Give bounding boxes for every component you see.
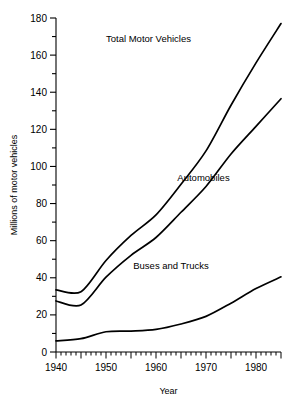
x-axis-title: Year (159, 386, 177, 396)
chart-figure: 020406080100120140160180 194019501960197… (0, 0, 293, 399)
y-tick-label: 0 (41, 347, 47, 358)
y-tick-label: 80 (36, 198, 48, 209)
x-tick-label: 1950 (95, 362, 118, 373)
x-tick-label: 1940 (45, 362, 68, 373)
y-tick-label: 180 (30, 13, 47, 24)
x-tick-label: 1970 (195, 362, 218, 373)
y-axis-title: Millions of motor vehicles (9, 134, 19, 235)
y-tick-label: 100 (30, 161, 47, 172)
x-tick-label: 1980 (245, 362, 268, 373)
y-tick-label: 140 (30, 87, 47, 98)
y-tick-label: 120 (30, 124, 47, 135)
y-tick-label: 20 (36, 309, 48, 320)
line-chart: 020406080100120140160180 194019501960197… (0, 0, 293, 399)
series-label: Automobiles (177, 172, 230, 183)
y-tick-label: 160 (30, 50, 47, 61)
series-label: Total Motor Vehicles (106, 33, 191, 44)
x-tick-label: 1960 (145, 362, 168, 373)
y-tick-label: 40 (36, 272, 48, 283)
series-label: Buses and Trucks (133, 260, 209, 271)
y-tick-label: 60 (36, 235, 48, 246)
